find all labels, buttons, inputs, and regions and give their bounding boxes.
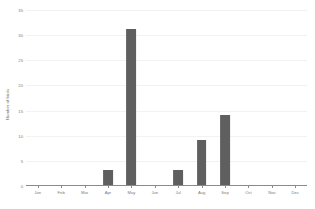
y-tick-label: 20 <box>18 83 23 88</box>
y-tick-label: 15 <box>18 108 23 113</box>
x-axis-line <box>26 185 307 186</box>
gridline <box>26 161 307 162</box>
bar-chart: Number of birds 05101520253035 JanFebMar… <box>0 0 315 209</box>
y-tick-label: 25 <box>18 58 23 63</box>
bar <box>220 115 230 185</box>
x-tick-mark <box>272 186 273 188</box>
y-tick-label: 0 <box>21 184 23 189</box>
x-tick-label: Feb <box>58 190 65 195</box>
bar <box>103 170 113 185</box>
x-tick-label: May <box>127 190 135 195</box>
bar <box>173 170 183 185</box>
x-tick-label: Aug <box>198 190 205 195</box>
x-tick-label: Mar <box>81 190 88 195</box>
x-tick-label: Jan <box>34 190 41 195</box>
y-tick-label: 35 <box>18 8 23 13</box>
x-tick-mark <box>108 186 109 188</box>
bar <box>197 140 207 185</box>
x-tick-mark <box>131 186 132 188</box>
x-tick-mark <box>248 186 249 188</box>
gridline <box>26 111 307 112</box>
y-tick-label: 10 <box>18 133 23 138</box>
gridline <box>26 60 307 61</box>
x-tick-label: Jun <box>151 190 158 195</box>
y-tick-label: 30 <box>18 33 23 38</box>
x-tick-label: Apr <box>105 190 112 195</box>
x-tick-mark <box>38 186 39 188</box>
x-tick-mark <box>178 186 179 188</box>
x-tick-label: Sep <box>221 190 228 195</box>
x-tick-mark <box>225 186 226 188</box>
gridline <box>26 35 307 36</box>
y-axis-title: Number of birds <box>0 0 14 209</box>
gridline <box>26 10 307 11</box>
bar <box>126 29 136 185</box>
gridline <box>26 136 307 137</box>
plot-area: 05101520253035 JanFebMarAprMayJunJulAugS… <box>26 10 307 186</box>
x-tick-mark <box>85 186 86 188</box>
x-tick-label: Oct <box>245 190 252 195</box>
x-tick-mark <box>202 186 203 188</box>
x-tick-label: Dec <box>292 190 299 195</box>
gridline <box>26 85 307 86</box>
x-tick-mark <box>155 186 156 188</box>
x-tick-mark <box>295 186 296 188</box>
x-tick-label: Jul <box>176 190 181 195</box>
x-tick-mark <box>61 186 62 188</box>
y-tick-label: 5 <box>21 158 23 163</box>
x-tick-label: Nov <box>268 190 275 195</box>
